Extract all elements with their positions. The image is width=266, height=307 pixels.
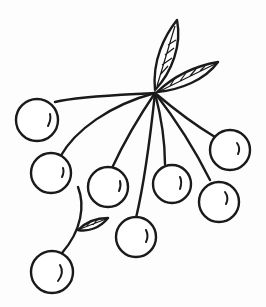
berry-1: [16, 99, 58, 141]
berry-4: [153, 165, 191, 203]
berry-2: [31, 153, 71, 193]
berry-8: [31, 251, 73, 293]
berry-6: [199, 182, 239, 222]
berry-3: [88, 167, 128, 207]
berry-7: [116, 217, 156, 257]
berry-illustration: [0, 0, 266, 307]
berry-cluster-drawing: [0, 0, 266, 307]
berry-5: [210, 130, 250, 170]
